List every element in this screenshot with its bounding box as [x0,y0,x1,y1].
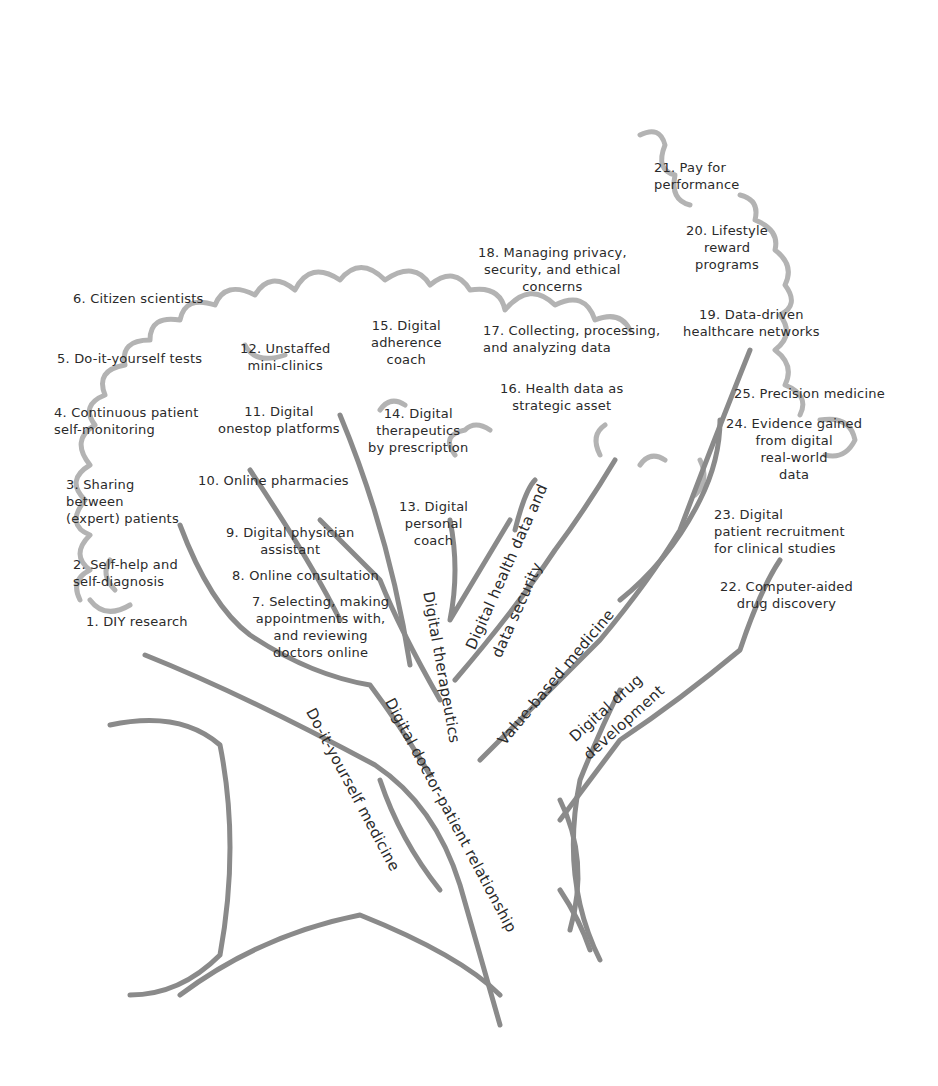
leaf-17-collecting-data: 17. Collecting, processing, and analyzin… [483,322,660,356]
leaf-21-pay-for-performance: 21. Pay for performance [654,159,739,193]
leaf-13-personal-coach: 13. Digital personal coach [399,498,468,549]
leaf-19-data-driven-networks: 19. Data-driven healthcare networks [683,306,820,340]
leaf-1-diy-research: 1. DIY research [86,613,188,630]
leaf-11-onestop-platforms: 11. Digital onestop platforms [218,403,340,437]
leaf-23-patient-recruitment: 23. Digital patient recruitment for clin… [714,506,845,557]
leaf-18-privacy-security: 18. Managing privacy, security, and ethi… [478,244,627,295]
leaf-14-therapeutics-prescription: 14. Digital therapeutics by prescription [368,405,468,456]
leaf-12-mini-clinics: 12. Unstaffed mini-clinics [240,340,330,374]
leaf-15-adherence-coach: 15. Digital adherence coach [371,317,442,368]
leaf-9-physician-assistant: 9. Digital physician assistant [226,524,354,558]
leaf-6-citizen-scientists: 6. Citizen scientists [73,290,203,307]
leaf-7-selecting-doctors: 7. Selecting, making appointments with, … [252,593,389,661]
leaf-24-real-world-evidence: 24. Evidence gained from digital real-wo… [726,415,862,483]
leaf-3-sharing-patients: 3. Sharing between (expert) patients [66,476,179,527]
leaf-16-health-data-asset: 16. Health data as strategic asset [500,380,623,414]
leaf-22-drug-discovery: 22. Computer-aided drug discovery [720,578,853,612]
leaf-2-self-help: 2. Self-help and self-diagnosis [73,556,178,590]
leaf-25-precision-medicine: 25. Precision medicine [734,385,885,402]
leaf-4-continuous-monitoring: 4. Continuous patient self-monitoring [54,404,199,438]
leaf-8-online-consultation: 8. Online consultation [232,567,379,584]
leaf-20-lifestyle-reward: 20. Lifestyle reward programs [686,222,768,273]
leaf-10-online-pharmacies: 10. Online pharmacies [198,472,349,489]
leaf-5-diy-tests: 5. Do-it-yourself tests [57,350,202,367]
